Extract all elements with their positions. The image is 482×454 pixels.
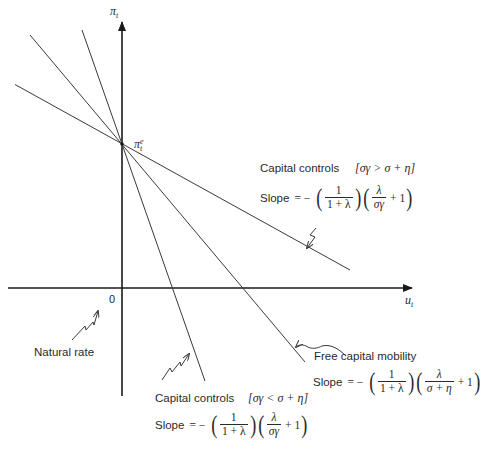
fraction-2-denominator: σγ [267,424,281,438]
capital-controls-high-title: Capital controls [260,162,339,174]
slope-label: Slope [155,419,184,431]
fraction-1: 1 1 + λ [378,368,406,395]
fraction-2-numerator: λ [374,184,383,197]
plus-one: + 1 [390,192,405,204]
paren-open: ( [416,369,422,395]
fraction-1-denominator: 1 + λ [325,197,353,211]
fraction-1-denominator: 1 + λ [220,424,248,438]
fraction-2-denominator: σ + η [425,381,454,395]
paren-close: ) [474,369,480,395]
fraction-1: 1 1 + λ [325,184,353,211]
fraction-2-numerator: λ [269,411,278,424]
x-axis-label: ut [405,293,413,309]
paren-open: ( [363,185,369,211]
fraction-2: λ σ + η [425,368,454,395]
fraction-1-numerator: 1 [387,368,397,381]
line-capital-controls-high [15,85,350,271]
paren-open: ( [212,412,218,438]
natural-rate-label: Natural rate [34,346,94,358]
equals-minus: = − [347,376,363,388]
capital-controls-high-slope-formula: Slope = − ( 1 1 + λ ) ( λ σγ + 1 ) [260,184,414,211]
y-axis-subscript: t [116,11,118,20]
fraction-1: 1 1 + λ [220,411,248,438]
slope-label: Slope [260,192,289,204]
capital-controls-low-title: Capital controls [155,392,234,404]
paren-open: ( [370,369,376,395]
plus-one: + 1 [458,376,473,388]
paren-close: ) [355,185,361,211]
paren-open: ( [258,412,264,438]
paren-close: ) [301,412,307,438]
free-capital-mobility-title: Free capital mobility [314,350,416,362]
capital-controls-high-condition: [σγ > σ + η] [355,161,415,176]
origin-label: 0 [109,293,115,305]
paren-close: ) [406,185,412,211]
slope-label: Slope [313,376,342,388]
capital-controls-low-condition: [σγ < σ + η] [248,391,308,406]
pointer-arrow-natural-rate [72,311,98,340]
line-capital-controls-low [82,30,205,381]
fraction-1-denominator: 1 + λ [378,381,406,395]
intercept-subscript: t [140,145,144,152]
intercept-point [120,142,124,146]
fraction-2-numerator: λ [435,368,444,381]
x-axis-subscript: t [411,300,413,309]
intercept-label: πet [134,137,144,152]
equals-minus: = − [294,192,310,204]
fraction-2: λ σγ [372,184,386,211]
paren-close: ) [250,412,256,438]
pointer-arrow-capital-controls-high [307,228,316,248]
paren-open: ( [317,185,323,211]
equals-minus: = − [189,419,205,431]
fraction-2: λ σγ [267,411,281,438]
fraction-1-numerator: 1 [334,184,344,197]
capital-controls-low-slope-formula: Slope = − ( 1 1 + λ ) ( λ σγ + 1 ) [155,411,309,438]
fraction-2-denominator: σγ [372,197,386,211]
paren-close: ) [408,369,414,395]
free-capital-mobility-slope-formula: Slope = − ( 1 1 + λ ) ( λ σ + η + 1 ) [313,368,482,395]
y-axis-label: πt [110,4,118,20]
pointer-arrow-capital-controls-low [162,354,189,380]
plus-one: + 1 [285,419,300,431]
fraction-1-numerator: 1 [229,411,239,424]
